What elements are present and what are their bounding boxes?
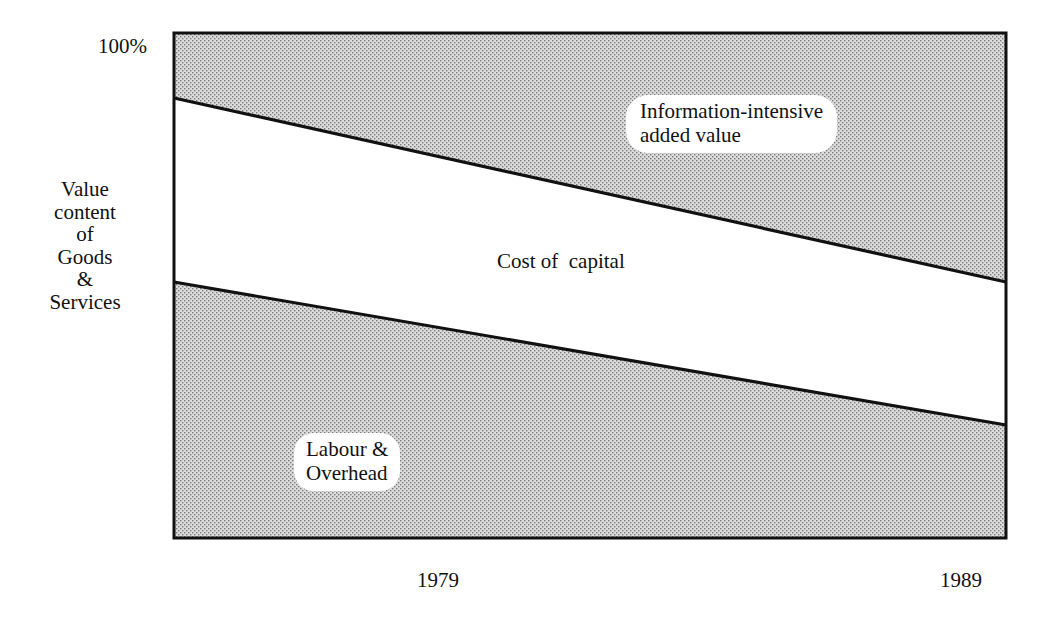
capital-region-label: Cost of capital <box>497 249 625 273</box>
labour-label-line: Overhead <box>306 461 388 485</box>
y-label-line: Goods <box>30 246 140 269</box>
y-tick-100: 100% <box>98 34 147 58</box>
info-label-line: added value <box>640 123 823 147</box>
y-label-line: Services <box>30 291 140 314</box>
labour-region-label: Labour & Overhead <box>294 433 400 491</box>
y-label-line: content <box>30 201 140 224</box>
labour-label-line: Labour & <box>306 437 388 461</box>
y-label-line: of <box>30 223 140 246</box>
y-label-line: & <box>30 268 140 291</box>
y-label-line: Value <box>30 178 140 201</box>
info-region-label: Information-intensive added value <box>626 95 837 153</box>
x-tick-1989: 1989 <box>940 568 982 592</box>
x-tick-1979: 1979 <box>417 568 459 592</box>
chart-canvas <box>0 0 1045 618</box>
info-label-line: Information-intensive <box>640 99 823 123</box>
y-axis-label: Value content of Goods & Services <box>30 178 140 313</box>
